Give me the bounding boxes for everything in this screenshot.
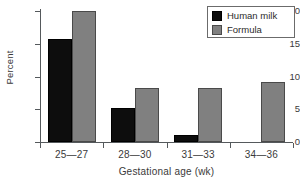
x-category-label-3: 34—36 — [230, 149, 293, 160]
bar-human-milk-0 — [48, 39, 72, 142]
bar-human-milk-2 — [174, 135, 198, 142]
legend-swatch-formula — [212, 25, 222, 35]
legend-item-human-milk: Human milk — [212, 10, 290, 22]
bar-formula-1 — [135, 88, 159, 142]
legend-label-formula: Formula — [227, 25, 262, 35]
chart-legend: Human milk Formula — [207, 6, 295, 38]
x-tick-0 — [40, 143, 41, 148]
x-category-label-1: 28—30 — [103, 149, 166, 160]
x-tick-2 — [167, 143, 168, 148]
x-category-label-0: 25—27 — [40, 149, 103, 160]
x-tick-3 — [230, 143, 231, 148]
bar-formula-3 — [261, 82, 285, 142]
legend-item-formula: Formula — [212, 24, 290, 36]
x-tick-1 — [103, 143, 104, 148]
bar-human-milk-1 — [111, 108, 135, 142]
x-axis-title: Gestational age (wk) — [40, 166, 293, 177]
bar-chart: Percent 05101520 25—2728—3031—3334—36 Ge… — [0, 0, 300, 187]
x-tick-4 — [293, 143, 294, 148]
bar-formula-0 — [72, 11, 96, 142]
bar-formula-2 — [198, 88, 222, 142]
legend-label-human-milk: Human milk — [227, 11, 277, 21]
x-category-label-2: 31—33 — [167, 149, 230, 160]
y-axis-title: Percent — [4, 38, 15, 98]
legend-swatch-human-milk — [212, 11, 222, 21]
